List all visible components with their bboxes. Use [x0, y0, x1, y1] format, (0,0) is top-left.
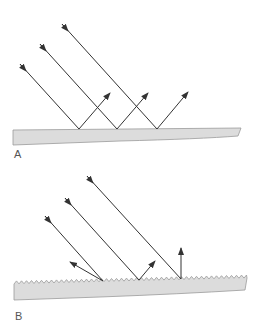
panel-label-b: B	[15, 310, 22, 322]
panel-label-a: A	[14, 148, 21, 160]
incident-rays-a	[20, 24, 157, 129]
reflected-rays-a	[79, 92, 188, 129]
panel-a	[13, 24, 241, 145]
rough-surface	[14, 275, 247, 300]
panel-b	[14, 176, 247, 300]
incident-rays-b	[45, 176, 181, 281]
smooth-surface	[13, 128, 241, 145]
reflection-diagram	[0, 0, 259, 325]
